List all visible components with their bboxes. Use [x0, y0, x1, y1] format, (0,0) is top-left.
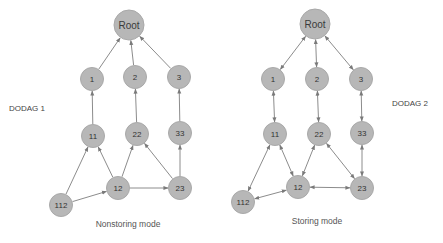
edge-3-to-Root — [140, 36, 171, 68]
node-11: 11 — [264, 123, 287, 146]
node-12: 12 — [107, 177, 130, 200]
edge-12-to-22 — [122, 145, 133, 176]
edge-112-to-12 — [255, 190, 287, 199]
edge-112-to-11 — [66, 147, 88, 194]
dodag-1-label: DODAG 1 — [9, 104, 46, 113]
edge-112-to-12 — [73, 191, 107, 201]
node-33: 33 — [169, 122, 192, 145]
node-3: 3 — [168, 66, 191, 89]
node-22: 22 — [308, 123, 331, 146]
dodag-1-edges — [66, 36, 180, 201]
edge-1-to-Root — [99, 38, 120, 69]
dodag-1-graph: Root1231122331223112 DODAG 1 Nonstoring … — [9, 10, 192, 229]
edge-12-to-22 — [302, 145, 314, 176]
edge-23-to-22 — [327, 143, 355, 178]
edge-33-to-3 — [361, 91, 362, 121]
node-label: Root — [118, 20, 139, 31]
node-label: 112 — [55, 201, 68, 210]
node-2: 2 — [306, 68, 329, 91]
dodag-2-caption: Storing mode — [292, 216, 343, 226]
edge-12-to-23 — [310, 187, 350, 188]
node-label: 1 — [271, 75, 276, 84]
node-label: 22 — [315, 130, 324, 139]
node-label: 112 — [237, 198, 250, 207]
edge-2-to-Root — [316, 40, 317, 68]
node-label: 12 — [294, 183, 303, 192]
dodag-1-caption: Nonstoring mode — [96, 219, 161, 229]
node-label: 12 — [114, 184, 123, 193]
node-label: 11 — [89, 132, 98, 141]
edge-3-to-Root — [325, 36, 353, 70]
node-label: 2 — [133, 73, 138, 82]
node-23: 23 — [351, 177, 374, 200]
node-label: 22 — [133, 130, 142, 139]
node-1: 1 — [81, 68, 104, 91]
dodag-diagram-canvas: Root1231122331223112 DODAG 1 Nonstoring … — [0, 0, 443, 243]
dodag-2-graph: Root1231122331223112 DODAG 2 Storing mod… — [232, 9, 429, 226]
edge-12-to-11 — [98, 147, 113, 177]
edge-11-to-1 — [273, 91, 274, 122]
node-1: 1 — [262, 68, 285, 91]
edge-2-to-Root — [131, 40, 134, 65]
node-11: 11 — [82, 125, 105, 148]
node-label: 33 — [176, 129, 185, 138]
dodag-2-edges — [248, 36, 362, 199]
node-label: 1 — [90, 75, 95, 84]
edge-112-to-11 — [248, 145, 270, 191]
node-root: Root — [300, 9, 330, 39]
node-label: 33 — [358, 129, 367, 138]
node-label: 11 — [271, 130, 280, 139]
node-label: 3 — [359, 75, 364, 84]
node-label: 3 — [177, 73, 182, 82]
node-label: 23 — [176, 184, 185, 193]
edge-22-to-2 — [317, 91, 318, 122]
node-23: 23 — [169, 177, 192, 200]
node-2: 2 — [124, 66, 147, 89]
node-22: 22 — [126, 123, 149, 146]
dodag-1-nodes: Root1231122331223112 — [50, 10, 192, 217]
node-33: 33 — [351, 122, 374, 145]
node-label: 2 — [315, 75, 320, 84]
dodag-2-label: DODAG 2 — [392, 99, 429, 108]
node-3: 3 — [350, 68, 373, 91]
node-12: 12 — [287, 176, 310, 199]
edge-23-to-22 — [145, 143, 173, 178]
node-label: Root — [304, 19, 325, 30]
node-112: 112 — [232, 191, 255, 214]
node-label: 23 — [358, 184, 367, 193]
edge-11-to-1 — [92, 91, 93, 124]
node-root: Root — [114, 10, 144, 40]
edge-12-to-11 — [280, 145, 293, 176]
edge-33-to-3 — [179, 89, 180, 121]
node-112: 112 — [50, 194, 73, 217]
edge-1-to-Root — [280, 36, 305, 69]
edge-22-to-2 — [135, 89, 136, 122]
